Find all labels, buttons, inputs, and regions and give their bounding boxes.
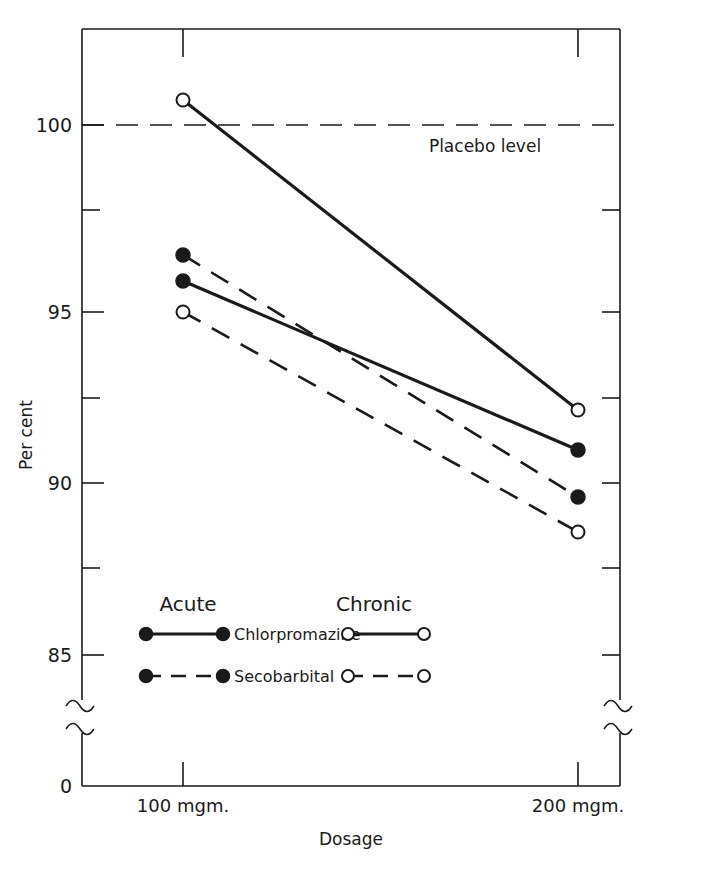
data-point-filled bbox=[571, 443, 585, 457]
chart-legend: Acute Chronic Chlorpromazine bbox=[140, 592, 431, 686]
placebo-level-reference: Placebo level bbox=[82, 125, 620, 156]
y-axis-right-ticks bbox=[602, 210, 620, 655]
data-point-filled bbox=[176, 274, 190, 288]
data-point-open bbox=[177, 94, 190, 107]
legend-marker-open-circle bbox=[418, 670, 430, 682]
data-point-filled bbox=[176, 248, 190, 262]
chart-canvas: 100 95 90 85 0 Per cent 100 mgm. 200 mgm… bbox=[0, 0, 704, 869]
series-acute-secobarbital bbox=[176, 248, 585, 504]
break-squiggle-lower-left bbox=[66, 724, 94, 735]
legend-marker-filled-circle bbox=[140, 670, 153, 683]
legend-marker-open-circle bbox=[418, 628, 430, 640]
data-point-open bbox=[572, 526, 585, 539]
y-tick-label-95: 95 bbox=[48, 301, 72, 323]
legend-marker-open-circle bbox=[342, 670, 354, 682]
legend-marker-filled-circle bbox=[217, 670, 230, 683]
series-chronic-secobarbital bbox=[177, 306, 585, 539]
data-point-open bbox=[572, 404, 585, 417]
data-point-open bbox=[177, 306, 190, 319]
y-axis-break-icon bbox=[66, 701, 94, 735]
chart-svg: 100 95 90 85 0 Per cent 100 mgm. 200 mgm… bbox=[0, 0, 704, 869]
y-axis-major-ticks bbox=[82, 125, 104, 655]
break-squiggle-upper-right bbox=[604, 701, 632, 712]
legend-marker-open-circle bbox=[342, 628, 354, 640]
y-axis-break-icon-right bbox=[604, 701, 632, 735]
y-tick-label-0: 0 bbox=[60, 775, 72, 797]
placebo-level-label: Placebo level bbox=[429, 136, 541, 156]
x-axis-title: Dosage bbox=[319, 829, 383, 849]
y-axis-minor-ticks bbox=[82, 210, 100, 568]
legend-column-header-acute: Acute bbox=[159, 592, 216, 616]
break-squiggle-lower-right bbox=[604, 724, 632, 735]
y-tick-label-100: 100 bbox=[36, 114, 72, 136]
y-tick-label-85: 85 bbox=[48, 644, 72, 666]
legend-marker-filled-circle bbox=[217, 628, 230, 641]
x-tick-label-200mgm: 200 mgm. bbox=[532, 795, 624, 816]
break-squiggle-upper-left bbox=[66, 701, 94, 712]
y-tick-label-90: 90 bbox=[48, 472, 72, 494]
chart-figure: 100 95 90 85 0 Per cent 100 mgm. 200 mgm… bbox=[0, 0, 704, 869]
legend-label-secobarbital: Secobarbital bbox=[234, 667, 334, 686]
data-point-filled bbox=[571, 490, 585, 504]
legend-marker-filled-circle bbox=[140, 628, 153, 641]
legend-column-header-chronic: Chronic bbox=[336, 592, 412, 616]
legend-row-secobarbital[interactable]: Secobarbital bbox=[140, 667, 431, 686]
x-tick-label-100mgm: 100 mgm. bbox=[137, 795, 229, 816]
series-line bbox=[183, 255, 578, 497]
y-axis-title: Per cent bbox=[16, 400, 36, 470]
series-line bbox=[183, 312, 578, 532]
legend-row-chlorpromazine[interactable]: Chlorpromazine bbox=[140, 625, 431, 644]
